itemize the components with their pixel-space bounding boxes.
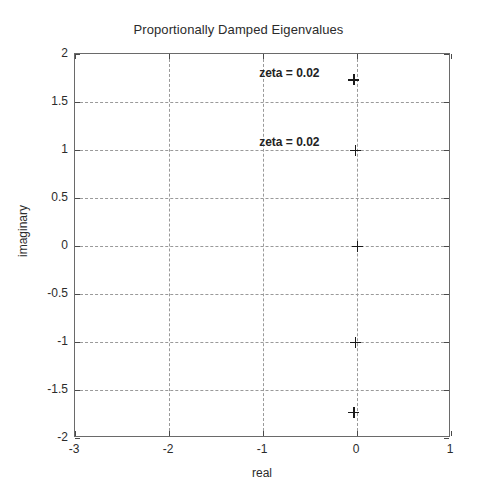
gridline-horizontal [75, 102, 449, 103]
x-tick-label: 1 [447, 442, 454, 456]
y-axis-tick [75, 294, 80, 295]
x-axis-tick-top [263, 54, 264, 59]
y-axis-tick-right [444, 198, 449, 199]
y-axis-tick [75, 438, 80, 439]
y-axis-tick-right [444, 390, 449, 391]
y-tick-label: 1 [12, 142, 68, 156]
x-axis-tick-top [357, 54, 358, 59]
y-tick-label: -1 [12, 334, 68, 348]
y-axis-tick-right [444, 54, 449, 55]
y-axis-label: imaginary [16, 186, 30, 276]
x-axis-tick [451, 431, 452, 436]
y-axis-tick-right [444, 246, 449, 247]
zeta-annotation: zeta = 0.02 [259, 66, 319, 80]
y-axis-tick [75, 342, 80, 343]
y-axis-tick [75, 102, 80, 103]
y-axis-tick-right [444, 294, 449, 295]
gridline-horizontal [75, 246, 449, 247]
y-axis-tick [75, 54, 80, 55]
x-axis-tick [357, 431, 358, 436]
y-tick-label: -0.5 [12, 286, 68, 300]
gridline-vertical [169, 54, 170, 436]
eigenvalue-plot-figure: Proportionally Damped Eigenvalues zeta =… [0, 0, 477, 504]
x-axis-tick-top [169, 54, 170, 59]
gridline-horizontal [75, 342, 449, 343]
zeta-annotation: zeta = 0.02 [259, 135, 319, 149]
y-axis-tick [75, 150, 80, 151]
x-axis-label: real [74, 466, 450, 480]
x-tick-label: -1 [257, 442, 268, 456]
gridline-vertical [357, 54, 358, 436]
y-tick-label: 2 [12, 46, 68, 60]
chart-title: Proportionally Damped Eigenvalues [0, 22, 477, 37]
x-axis-tick [75, 431, 76, 436]
y-axis-tick [75, 198, 80, 199]
y-tick-label: 1.5 [12, 94, 68, 108]
x-axis-tick-top [451, 54, 452, 59]
y-tick-label: -1.5 [12, 382, 68, 396]
x-tick-label: 0 [353, 442, 360, 456]
x-tick-label: -3 [69, 442, 80, 456]
gridline-horizontal [75, 294, 449, 295]
y-tick-label: -2 [12, 430, 68, 444]
gridline-vertical [263, 54, 264, 436]
gridline-horizontal [75, 198, 449, 199]
y-axis-tick-right [444, 438, 449, 439]
x-tick-label: -2 [163, 442, 174, 456]
x-axis-tick [263, 431, 264, 436]
y-axis-tick-right [444, 102, 449, 103]
plot-area: zeta = 0.02zeta = 0.02 [74, 53, 450, 437]
gridline-horizontal [75, 150, 449, 151]
x-axis-tick [169, 431, 170, 436]
y-axis-tick-right [444, 342, 449, 343]
y-axis-tick [75, 390, 80, 391]
y-axis-tick [75, 246, 80, 247]
y-axis-tick-right [444, 150, 449, 151]
gridline-horizontal [75, 390, 449, 391]
